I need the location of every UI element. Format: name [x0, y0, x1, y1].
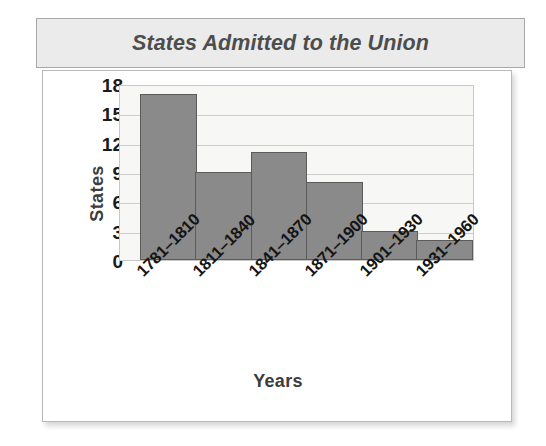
chart-title: States Admitted to the Union	[132, 31, 429, 56]
chart-title-banner: States Admitted to the Union	[36, 18, 525, 68]
x-axis-tick-labels: 1781–18101811–18401841–18701871–19001901…	[139, 267, 474, 367]
plot-wrapper: States 0369121518 1781–18101811–18401841…	[43, 71, 513, 423]
chart-figure-frame: States 0369121518 1781–18101811–18401841…	[42, 70, 512, 422]
x-axis-title: Years	[43, 371, 513, 392]
